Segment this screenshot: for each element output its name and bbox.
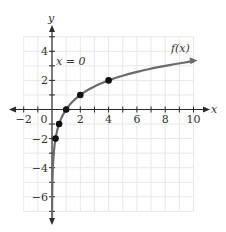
x-tick-label: 0: [41, 113, 48, 126]
data-point: [63, 106, 70, 113]
data-point: [105, 77, 112, 84]
data-point: [52, 135, 59, 142]
data-point: [56, 121, 63, 128]
x-axis-label: x: [211, 103, 218, 116]
x-axis-right-arrow-icon: [203, 107, 210, 113]
x-tick-label: −2: [16, 113, 32, 126]
y-tick-label: −6: [32, 191, 48, 204]
y-axis-up-arrow-icon: [49, 25, 55, 32]
x-tick-label: 10: [187, 113, 201, 126]
asymptote-label: x = 0: [56, 55, 85, 68]
log-function-graph: y x f(x) x = 0 −2024681042−2−4−6: [0, 0, 226, 232]
x-tick-label: 4: [105, 113, 112, 126]
y-tick-label: −2: [32, 133, 48, 146]
y-axis-down-arrow-icon: [49, 218, 55, 225]
x-tick-label: 8: [162, 113, 169, 126]
y-tick-label: 4: [41, 45, 48, 58]
x-tick-label: 2: [77, 113, 84, 126]
x-tick-label: 6: [133, 113, 140, 126]
y-tick-label: 2: [41, 74, 48, 87]
function-curve: [52, 57, 197, 217]
function-label: f(x): [170, 42, 190, 55]
y-tick-label: −4: [32, 162, 48, 175]
data-point: [77, 92, 84, 99]
y-axis-label: y: [47, 12, 55, 25]
